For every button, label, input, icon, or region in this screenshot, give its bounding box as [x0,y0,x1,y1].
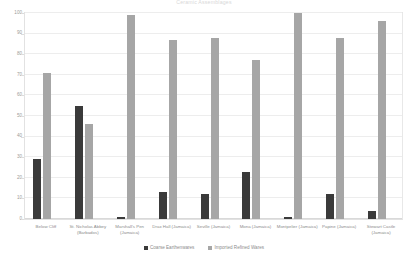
legend-label: Coarse Earthenwares [150,245,194,251]
y-axis-tick-label: 40 [6,134,22,139]
bars-layer [25,13,402,219]
bar-imported-refined-wares [252,60,260,219]
y-axis-tick-label: 10 [6,196,22,201]
bar-group [276,13,318,219]
chart-legend: Coarse EarthenwaresImported Refined Ware… [0,245,408,251]
bar-coarse-earthenwares [368,211,376,219]
bar-group [151,13,193,219]
y-axis-tickmark [21,54,24,55]
x-axis-label: St. Nicholas Abbey (Barbados) [65,224,111,235]
bar-group [25,13,67,219]
y-axis-tickmark [21,157,24,158]
bar-coarse-earthenwares [201,194,209,219]
bar-coarse-earthenwares [326,194,334,219]
y-axis-tickmark [21,137,24,138]
bar-group [109,13,151,219]
y-axis-tick-label: 0 [6,217,22,222]
y-axis-tickmark [21,198,24,199]
bar-coarse-earthenwares [75,106,83,219]
x-axis-label: Stewart Castle (Jamaica) [358,224,404,235]
y-axis-tickmark [21,75,24,76]
bar-imported-refined-wares [211,38,219,219]
legend-item[interactable]: Coarse Earthenwares [144,245,194,251]
legend-item[interactable]: Imported Refined Wares [208,245,264,251]
bar-group [67,13,109,219]
y-axis-tick-label: 70 [6,73,22,78]
x-axis-label: Papine (Jamaica) [316,224,362,230]
y-axis-tick-label: 80 [6,52,22,57]
bar-coarse-earthenwares [242,172,250,219]
bar-imported-refined-wares [378,21,386,219]
bar-coarse-earthenwares [33,159,41,219]
legend-swatch-icon [144,246,148,250]
y-axis-tickmark [21,219,24,220]
y-axis-tick-label: 20 [6,176,22,181]
bar-imported-refined-wares [169,40,177,219]
bar-imported-refined-wares [85,124,93,219]
y-axis-tick-label: 50 [6,114,22,119]
y-axis-tickmark [21,116,24,117]
y-axis-tickmark [21,178,24,179]
y-axis-tick-label: 30 [6,155,22,160]
bar-chart: Ceramic Assemblages 01020304050607080901… [0,0,408,268]
y-axis-tick-label: 60 [6,93,22,98]
x-axis-labels: Below CliffSt. Nicholas Abbey (Barbados)… [25,224,402,246]
legend-swatch-icon [208,246,212,250]
legend-label: Imported Refined Wares [214,245,264,251]
bar-group [360,13,402,219]
y-axis-tickmark [21,13,24,14]
y-axis-tickmark [21,34,24,35]
bar-coarse-earthenwares [284,217,292,219]
bar-imported-refined-wares [336,38,344,219]
bar-imported-refined-wares [127,15,135,219]
bar-group [234,13,276,219]
x-axis-label: Seville (Jamaica) [191,224,237,230]
x-axis-label: Montpelier (Jamaica) [274,224,320,230]
bar-group [318,13,360,219]
bar-coarse-earthenwares [117,217,125,219]
y-axis-tick-label: 100 [6,11,22,16]
bar-group [193,13,235,219]
x-axis-label: Mona (Jamaica) [232,224,278,230]
y-axis-tick-label: 90 [6,31,22,36]
x-axis-label: Drax Hall (Jamaica) [149,224,195,230]
x-axis-label: Below Cliff [23,224,69,230]
x-axis-label: Marshall's Pen (Jamaica) [107,224,153,235]
bar-imported-refined-wares [43,73,51,219]
chart-title: Ceramic Assemblages [0,0,408,6]
bar-imported-refined-wares [294,13,302,219]
bar-coarse-earthenwares [159,192,167,219]
y-axis-tickmark [21,95,24,96]
